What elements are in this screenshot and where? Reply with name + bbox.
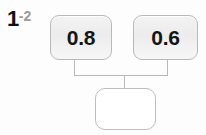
node-parent-right-value: 0.6 [151, 27, 179, 48]
step-label-minor: -2 [19, 8, 31, 24]
node-parent-left[interactable]: 0.8 [50, 15, 112, 60]
diagram-canvas: 1-2 0.8 0.6 [0, 0, 206, 135]
node-output[interactable] [95, 88, 156, 130]
node-parent-right[interactable]: 0.6 [133, 15, 198, 60]
step-label-major: 1 [7, 6, 19, 31]
node-parent-left-value: 0.8 [67, 27, 95, 48]
step-label: 1-2 [7, 8, 31, 30]
